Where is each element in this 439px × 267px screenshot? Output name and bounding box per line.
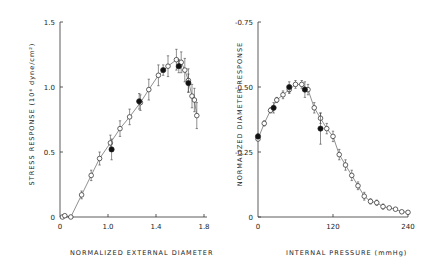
left-open-point xyxy=(195,113,200,118)
right-open-point xyxy=(274,98,279,103)
left-open-point xyxy=(108,141,113,146)
right-filled-point xyxy=(287,84,292,89)
right-filled-point xyxy=(318,126,323,131)
right-x-tick-label: 240 xyxy=(401,223,414,231)
left-y-axis-label: STRESS RESPONSE (10⁶ dyne/cm²) xyxy=(28,43,36,186)
left-open-point xyxy=(89,173,94,178)
left-open-point xyxy=(97,156,102,161)
left-y-tick-label: 1.5 xyxy=(44,19,55,27)
left-filled-point xyxy=(161,68,166,73)
left-x-tick-label: 0 xyxy=(58,223,62,231)
left-x-tick-label: 1.4 xyxy=(150,223,162,231)
right-y-tick-label: 0 xyxy=(249,214,253,222)
left-open-point xyxy=(156,73,161,78)
right-open-point xyxy=(368,199,373,204)
right-open-point xyxy=(381,204,386,209)
right-filled-point xyxy=(255,134,260,139)
right-open-point xyxy=(299,82,304,87)
right-open-point xyxy=(362,194,367,199)
right-x-tick-label: 0 xyxy=(256,223,260,231)
left-open-point xyxy=(166,64,171,69)
right-open-point xyxy=(349,173,354,178)
left-y-tick-label: 1.0 xyxy=(44,84,55,92)
right-x-tick-label: 120 xyxy=(326,223,339,231)
right-open-point xyxy=(343,163,348,168)
left-x-tick-label: 1.8 xyxy=(198,223,209,231)
figure: 00.51.01.501.01.41.80-0.25-0.50-0.750120… xyxy=(0,0,439,267)
right-x-axis-label: INTERNAL PRESSURE (mmHg) xyxy=(286,249,407,257)
right-open-point xyxy=(281,93,286,98)
right-open-point xyxy=(393,207,398,212)
left-x-tick-label: 1.0 xyxy=(102,223,113,231)
right-y-axis-label: NORMALIZED DIAMETER RESPONSE xyxy=(236,42,244,186)
right-open-point xyxy=(262,121,267,126)
left-open-point xyxy=(79,193,84,198)
left-open-point xyxy=(118,126,123,131)
right-open-point xyxy=(312,106,317,111)
right-filled-point xyxy=(302,87,307,92)
left-open-point xyxy=(127,115,132,120)
left-x-axis-label: NORMALIZED EXTERNAL DIAMETER xyxy=(70,249,213,257)
left-filled-point xyxy=(137,99,142,104)
chart-canvas: 00.51.01.501.01.41.80-0.25-0.50-0.750120… xyxy=(0,0,439,267)
right-series-line xyxy=(258,84,408,212)
right-open-point xyxy=(356,184,361,189)
right-open-point xyxy=(406,210,411,215)
right-filled-point xyxy=(271,105,276,110)
left-y-tick-label: 0 xyxy=(51,214,55,222)
left-open-point xyxy=(192,98,197,103)
left-open-point xyxy=(69,215,74,220)
right-open-point xyxy=(387,206,392,211)
right-open-point xyxy=(331,134,336,139)
left-filled-point xyxy=(186,81,191,86)
right-y-tick-label: -0.75 xyxy=(235,19,253,27)
right-open-point xyxy=(293,82,298,87)
right-open-point xyxy=(374,200,379,205)
left-filled-point xyxy=(109,147,114,152)
left-y-tick-label: 0.5 xyxy=(44,149,55,157)
left-open-point xyxy=(147,87,152,92)
right-open-point xyxy=(324,126,329,131)
left-filled-point xyxy=(176,64,181,69)
left-open-point xyxy=(183,68,188,73)
left-open-point xyxy=(63,213,68,218)
right-open-point xyxy=(399,210,404,215)
right-open-point xyxy=(337,152,342,157)
